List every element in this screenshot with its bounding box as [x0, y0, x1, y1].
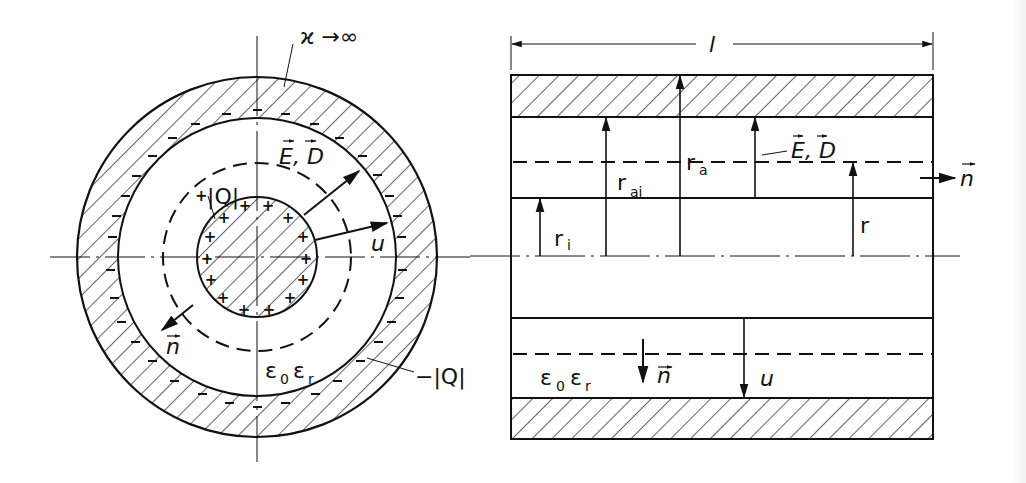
r-ai-label: r ai [617, 170, 642, 200]
svg-text:+: + [205, 271, 218, 289]
svg-text:i: i [567, 237, 571, 253]
outer-conductor-bottom [511, 398, 933, 439]
outer-charge-label: −|Q| [415, 364, 466, 390]
svg-text:ε: ε [540, 365, 552, 390]
page-edge-shadow [1012, 0, 1026, 483]
svg-text:+: + [239, 197, 252, 215]
voltage-label: u [371, 231, 385, 256]
svg-text:+: + [300, 250, 313, 268]
svg-text:0: 0 [280, 371, 289, 387]
svg-text:+: + [195, 187, 208, 205]
normal-down-label: n [657, 363, 672, 388]
svg-text:r: r [617, 170, 627, 195]
normal-right-label: n [960, 164, 975, 191]
svg-text:0: 0 [556, 378, 565, 394]
svg-text:+: + [238, 301, 251, 319]
field-label-right: E, D [762, 136, 836, 163]
length-label: l [709, 32, 715, 57]
svg-text:+: + [297, 271, 310, 289]
svg-text:+: + [284, 289, 297, 307]
svg-text:+: + [262, 197, 275, 215]
svg-text:n: n [166, 334, 180, 359]
svg-text:+: + [297, 228, 310, 246]
conductivity-label: ϰ →∞ [300, 24, 358, 49]
permittivity-label-right: ε 0 ε r [540, 365, 591, 394]
svg-text:+: + [263, 301, 276, 319]
normal-label: n [166, 334, 180, 359]
svg-text:+: + [201, 250, 214, 268]
field-vector-arrow [304, 171, 359, 215]
inner-charge-label: + |Q| [195, 184, 239, 210]
cross-section-view: ++ ++ ++ ++ ++ ++ ++ [50, 24, 470, 462]
svg-text:r: r [308, 371, 314, 387]
svg-text:+: + [282, 209, 295, 227]
svg-text:a: a [699, 162, 708, 178]
voltage-label-right: u [760, 366, 774, 391]
svg-text:r: r [585, 378, 591, 394]
svg-text:+: + [204, 228, 217, 246]
field-label: E, D [279, 141, 324, 169]
r-a-label: r a [686, 150, 708, 178]
svg-text:ε: ε [570, 365, 582, 390]
svg-text:+: + [217, 289, 230, 307]
r-i-label: r i [554, 226, 571, 253]
svg-text:E, D: E, D [791, 138, 836, 163]
diagram-canvas: ++ ++ ++ ++ ++ ++ ++ [0, 0, 1026, 483]
svg-text:ε: ε [265, 358, 277, 383]
svg-text:ε: ε [293, 358, 305, 383]
svg-text:r: r [686, 150, 696, 175]
svg-text:+: + [218, 209, 231, 227]
coaxial-cable-figure: ++ ++ ++ ++ ++ ++ ++ [0, 0, 1026, 483]
radius-label: r [860, 213, 870, 238]
svg-text:ai: ai [630, 184, 642, 200]
permittivity-label: ε 0 ε r [265, 358, 314, 387]
svg-text:n: n [960, 166, 974, 191]
svg-text:|Q|: |Q| [207, 184, 239, 210]
svg-text:E, D: E, D [279, 144, 324, 169]
normal-vector-arrow [162, 305, 193, 330]
longitudinal-section-view: l r i r ai r [470, 32, 975, 439]
outer-conductor-top [511, 75, 933, 117]
svg-text:r: r [554, 226, 564, 251]
